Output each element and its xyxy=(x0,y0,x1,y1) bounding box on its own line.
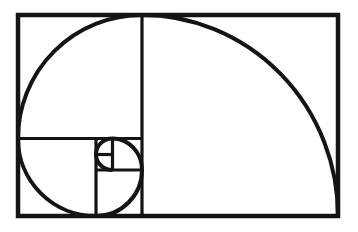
golden-spiral-path xyxy=(18,15,338,216)
fibonacci-spiral-diagram xyxy=(0,0,358,232)
outer-rectangle xyxy=(18,15,338,216)
fibonacci-spiral-figure xyxy=(0,0,358,232)
